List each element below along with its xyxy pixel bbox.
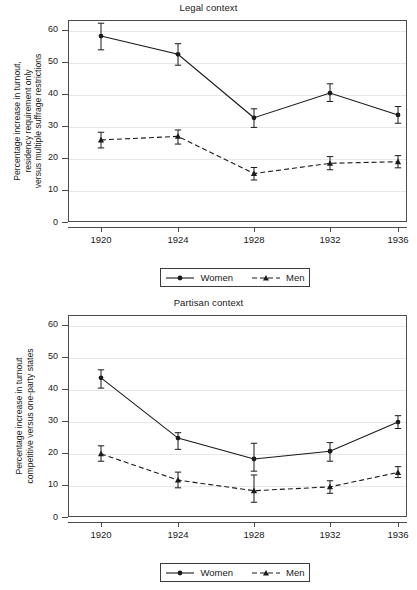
y-tick-label-40: 40 — [18, 89, 58, 98]
legend-marker-circle — [178, 275, 183, 280]
x-tick-label-1936: 1936 — [375, 234, 417, 245]
series-women — [98, 370, 401, 471]
x-tick-1924 — [178, 227, 179, 232]
y-tick-label-40: 40 — [18, 384, 58, 393]
data-point-circle — [176, 52, 181, 57]
data-point-circle — [176, 436, 181, 441]
legend-label: Women — [200, 272, 233, 283]
y-tick-label-30: 30 — [18, 121, 58, 130]
x-tick-label-1928: 1928 — [231, 234, 277, 245]
y-tick-60 — [62, 325, 68, 326]
legend-marker-circle — [178, 570, 183, 575]
x-tick-label-1928: 1928 — [231, 529, 277, 540]
legend-swatch-women — [165, 568, 195, 578]
chart-title-partisan: Partisan context — [0, 297, 417, 308]
series-layer-legal — [68, 20, 407, 222]
y-tick-label-10: 10 — [18, 480, 58, 489]
series-women — [98, 23, 401, 127]
y-tick-label-60: 60 — [18, 320, 58, 329]
legend-partisan: WomenMen — [160, 563, 310, 582]
x-tick-1936 — [398, 227, 399, 232]
legend-label: Men — [286, 567, 304, 578]
data-point-circle — [328, 91, 333, 96]
y-tick-label-30: 30 — [18, 416, 58, 425]
series-line — [101, 36, 398, 118]
x-tick-1920 — [101, 522, 102, 527]
data-point-circle — [328, 449, 333, 454]
legend-item-men[interactable]: Men — [251, 567, 304, 578]
data-point-circle — [396, 420, 401, 425]
legend-item-women[interactable]: Women — [165, 272, 233, 283]
legend-swatch-men — [251, 273, 281, 283]
series-line — [101, 136, 398, 173]
y-tick-0 — [62, 517, 68, 518]
x-tick-1932 — [330, 522, 331, 527]
data-point-circle — [99, 375, 104, 380]
y-tick-label-0: 0 — [18, 513, 58, 522]
chart-title-legal: Legal context — [0, 2, 417, 13]
y-tick-label-50: 50 — [18, 57, 58, 66]
chart-panel-legal: Legal context Percentage increase in tur… — [0, 0, 417, 295]
x-tick-label-1920: 1920 — [78, 234, 124, 245]
series-men — [98, 446, 401, 502]
legend-swatch-men — [251, 568, 281, 578]
y-tick-0 — [62, 222, 68, 223]
y-tick-10 — [62, 485, 68, 486]
y-tick-label-10: 10 — [18, 185, 58, 194]
x-tick-label-1924: 1924 — [155, 529, 201, 540]
legend-legal: WomenMen — [160, 268, 310, 287]
x-tick-1932 — [330, 227, 331, 232]
x-tick-label-1920: 1920 — [78, 529, 124, 540]
y-tick-40 — [62, 94, 68, 95]
legend-item-men[interactable]: Men — [251, 272, 304, 283]
y-tick-label-50: 50 — [18, 352, 58, 361]
legend-label: Men — [286, 272, 304, 283]
y-tick-40 — [62, 389, 68, 390]
x-tick-label-1932: 1932 — [307, 234, 353, 245]
y-tick-20 — [62, 158, 68, 159]
x-tick-1928 — [254, 522, 255, 527]
y-tick-10 — [62, 190, 68, 191]
y-tick-50 — [62, 357, 68, 358]
y-tick-30 — [62, 421, 68, 422]
series-layer-partisan — [68, 315, 407, 517]
data-point-triangle — [395, 469, 401, 475]
x-axis-line — [68, 522, 407, 523]
series-men — [98, 130, 401, 180]
x-tick-label-1936: 1936 — [375, 529, 417, 540]
y-tick-label-0: 0 — [18, 218, 58, 227]
legend-item-women[interactable]: Women — [165, 567, 233, 578]
x-tick-1920 — [101, 227, 102, 232]
y-tick-label-60: 60 — [18, 25, 58, 34]
y-tick-60 — [62, 30, 68, 31]
legend-label: Women — [200, 567, 233, 578]
data-point-circle — [252, 115, 257, 120]
series-line — [101, 454, 398, 491]
y-tick-label-20: 20 — [18, 448, 58, 457]
x-tick-label-1932: 1932 — [307, 529, 353, 540]
y-tick-30 — [62, 126, 68, 127]
x-tick-1924 — [178, 522, 179, 527]
data-point-circle — [396, 113, 401, 118]
data-point-triangle — [98, 451, 104, 457]
y-tick-50 — [62, 62, 68, 63]
x-tick-1928 — [254, 227, 255, 232]
x-tick-label-1924: 1924 — [155, 234, 201, 245]
y-tick-label-20: 20 — [18, 153, 58, 162]
chart-panel-partisan: Partisan context Percentage increase in … — [0, 295, 417, 590]
data-point-triangle — [175, 477, 181, 483]
legend-swatch-women — [165, 273, 195, 283]
x-tick-1936 — [398, 522, 399, 527]
y-tick-20 — [62, 453, 68, 454]
data-point-circle — [99, 34, 104, 39]
series-line — [101, 378, 398, 459]
x-axis-line — [68, 227, 407, 228]
data-point-circle — [252, 457, 257, 462]
